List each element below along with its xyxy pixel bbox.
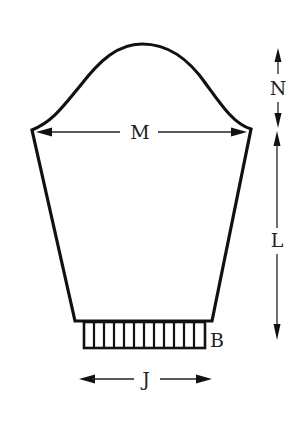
cuff bbox=[84, 322, 205, 348]
label-l: L bbox=[271, 229, 284, 251]
m-arrow-left-icon bbox=[36, 128, 52, 137]
dimension-l: L bbox=[271, 131, 284, 340]
m-arrow-right-icon bbox=[231, 128, 247, 137]
dimension-n: N bbox=[270, 48, 287, 128]
j-arrow-right-icon bbox=[196, 375, 212, 384]
label-m: M bbox=[130, 121, 149, 143]
cuff-ribs bbox=[94, 322, 194, 348]
label-b: B bbox=[210, 329, 224, 351]
dimension-j: J bbox=[79, 368, 212, 390]
n-arrow-down-icon bbox=[275, 113, 282, 128]
label-n: N bbox=[270, 77, 287, 99]
dimension-m: M bbox=[36, 121, 247, 143]
label-j: J bbox=[140, 368, 150, 390]
l-arrow-down-icon bbox=[274, 324, 281, 340]
sleeve-diagram: M N L B J bbox=[0, 0, 305, 424]
sleeve-outline bbox=[32, 44, 251, 321]
